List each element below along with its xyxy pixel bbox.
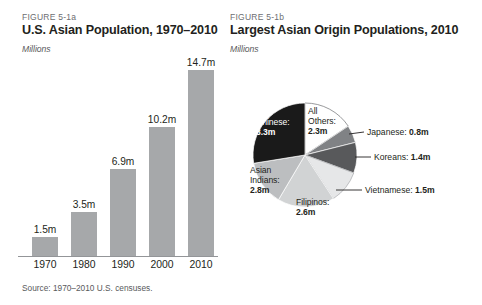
bar-chart-x-tick-labels: 1970 1980 1990 2000 2010 (22, 259, 218, 275)
pie-label-koreans-amount: 1.4m (411, 152, 431, 162)
bar-rect-1980 (71, 212, 97, 256)
pie-label-vietnamese-name: Vietnamese: (365, 185, 413, 195)
pie-label-japanese-amount: 0.8m (409, 127, 429, 137)
bar-value-1990: 6.9m (112, 156, 135, 167)
bar-rect-1970 (32, 237, 58, 256)
bar-rect-1990 (110, 169, 136, 256)
pie-label-chinese-amount: 3.3m (256, 127, 275, 137)
pie-label-filipinos-name: Filipinos: (296, 197, 329, 207)
pie-label-koreans-name: Koreans: (374, 152, 408, 162)
pie-label-all-others-amount: 2.3m (308, 126, 327, 136)
figure-a-kicker: FIGURE 5-1a (22, 12, 76, 22)
bar-chart-plot-area: 1.5m 3.5m 6.9m 10.2m 14.7m (22, 70, 218, 256)
pie-chart-svg (228, 0, 482, 305)
pie-label-asian-indians-name: Asian Indians: (250, 165, 280, 185)
bar-value-2000: 10.2m (148, 114, 176, 125)
pie-label-asian-indians: Asian Indians:2.8m (250, 166, 280, 196)
pie-chart-area: Chinese:3.3m All Others:2.3m Asian India… (228, 0, 482, 305)
bar-value-2010: 14.7m (187, 57, 215, 68)
pie-label-japanese-name: Japanese: (367, 127, 407, 137)
bar-value-1980: 3.5m (73, 199, 96, 210)
pie-label-all-others: All Others:2.3m (308, 107, 336, 137)
figure-5-1b-panel: FIGURE 5-1b Largest Asian Origin Populat… (228, 0, 482, 305)
pie-label-filipinos: Filipinos:2.6m (296, 198, 329, 218)
pie-label-vietnamese: Vietnamese: 1.5m (365, 185, 435, 195)
pie-label-all-others-name: All Others: (308, 106, 336, 126)
bar-value-1970: 1.5m (34, 224, 57, 235)
figure-a-units-label: Millions (22, 44, 51, 54)
pie-label-koreans: Koreans: 1.4m (374, 152, 430, 162)
figure-a-source-note: Source: 1970–2010 U.S. censuses. (22, 283, 153, 293)
pie-label-vietnamese-amount: 1.5m (415, 185, 435, 195)
bar-chart-x-axis-line (18, 256, 218, 257)
bar-rect-2000 (149, 127, 175, 256)
bar-rect-2010 (188, 70, 214, 256)
pie-label-filipinos-amount: 2.6m (296, 207, 315, 217)
pie-label-asian-indians-amount: 2.8m (250, 185, 269, 195)
figure-a-title: U.S. Asian Population, 1970–2010 (22, 23, 218, 37)
tick-label-2010: 2010 (178, 259, 224, 270)
pie-label-chinese: Chinese:3.3m (256, 118, 290, 138)
figure-5-1a-panel: FIGURE 5-1a U.S. Asian Population, 1970–… (0, 0, 228, 305)
pie-label-japanese: Japanese: 0.8m (367, 127, 429, 137)
pie-label-chinese-name: Chinese: (256, 117, 290, 127)
